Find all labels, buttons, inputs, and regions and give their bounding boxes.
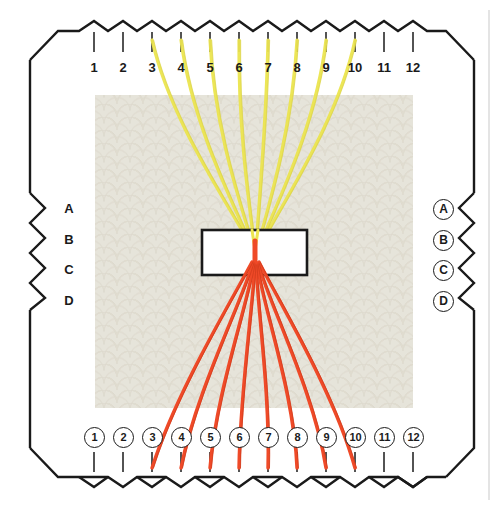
- bottom-pin-label-11: 11: [374, 427, 395, 448]
- lower-thread-layer: [0, 0, 504, 508]
- bottom-pin-label-2: 2: [113, 427, 134, 448]
- top-pin-label-11: 11: [371, 61, 397, 74]
- right-row-label-c: C: [433, 260, 454, 281]
- top-pin-label-10: 10: [342, 61, 368, 74]
- left-row-label-d: D: [60, 294, 78, 307]
- top-pin-label-1: 1: [81, 61, 107, 74]
- bottom-pin-label-6: 6: [229, 427, 250, 448]
- bottom-pin-label-7: 7: [258, 427, 279, 448]
- left-row-label-b: B: [60, 233, 78, 246]
- top-pin-label-7: 7: [255, 61, 281, 74]
- left-row-label-c: C: [60, 263, 78, 276]
- top-pin-label-2: 2: [110, 61, 136, 74]
- top-pin-label-3: 3: [139, 61, 165, 74]
- right-row-label-b: B: [433, 230, 454, 251]
- left-row-label-a: A: [60, 202, 78, 215]
- diagram-canvas: 1 2 3 4 5 6 7 8 9 10 11 12 1 2 3 4 5 6 7…: [0, 0, 504, 508]
- top-pin-label-9: 9: [313, 61, 339, 74]
- bottom-pin-label-9: 9: [316, 427, 337, 448]
- right-row-label-d: D: [433, 291, 454, 312]
- top-pin-label-6: 6: [226, 61, 252, 74]
- bottom-pin-label-1: 1: [84, 427, 105, 448]
- top-pin-label-8: 8: [284, 61, 310, 74]
- top-pin-label-5: 5: [197, 61, 223, 74]
- bottom-pin-label-10: 10: [345, 427, 366, 448]
- bottom-pin-label-3: 3: [142, 427, 163, 448]
- bottom-pin-label-5: 5: [200, 427, 221, 448]
- bottom-pin-label-12: 12: [403, 427, 424, 448]
- right-row-label-a: A: [433, 199, 454, 220]
- top-pin-label-12: 12: [400, 61, 426, 74]
- top-pin-label-4: 4: [168, 61, 194, 74]
- bottom-pin-label-8: 8: [287, 427, 308, 448]
- bottom-pin-label-4: 4: [171, 427, 192, 448]
